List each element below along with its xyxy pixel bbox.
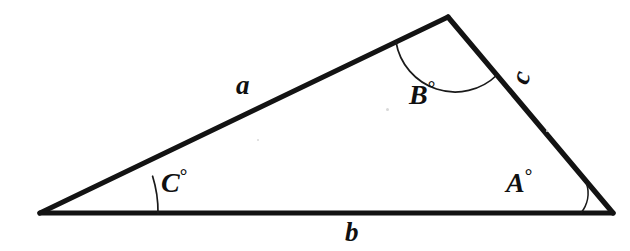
angle-label-A: A°: [506, 166, 532, 197]
scan-speck: [257, 139, 259, 141]
degree-symbol-A: °: [525, 165, 533, 186]
scan-speck: [386, 108, 389, 111]
side-label-a: a: [236, 72, 250, 99]
triangle-side-a: [40, 17, 448, 213]
diagram-canvas: a b c A° B° C°: [0, 0, 630, 251]
angle-label-A-letter: A: [506, 167, 525, 198]
degree-symbol-C: °: [180, 165, 188, 186]
scan-speck: [546, 130, 548, 132]
degree-symbol-B: °: [428, 77, 436, 98]
triangle-figure: [0, 0, 630, 251]
angle-arc-A: [581, 184, 588, 214]
side-label-b: b: [345, 219, 359, 246]
angle-label-B: B°: [409, 78, 435, 109]
angle-label-C-letter: C: [161, 167, 180, 198]
angle-arc-C: [153, 176, 158, 213]
angle-label-B-letter: B: [409, 79, 428, 110]
angle-label-C: C°: [161, 166, 187, 197]
